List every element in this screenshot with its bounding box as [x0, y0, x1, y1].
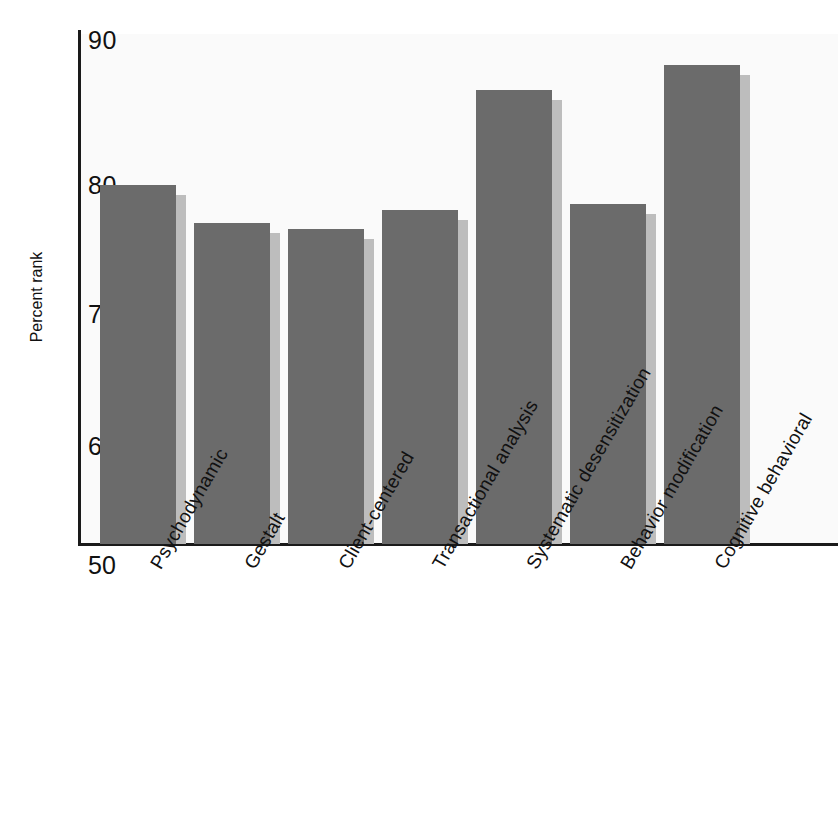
chart-page: 90 80 70 60 50 Percent rank Psychodynami… [0, 0, 838, 816]
y-axis-title: Percent rank [28, 232, 46, 362]
bar-fill-1 [100, 185, 176, 544]
y-tick-label-50: 50 [88, 553, 116, 578]
bar-fill-3 [288, 229, 364, 544]
y-tick-label-90: 90 [88, 28, 117, 53]
y-axis-line [78, 30, 81, 546]
